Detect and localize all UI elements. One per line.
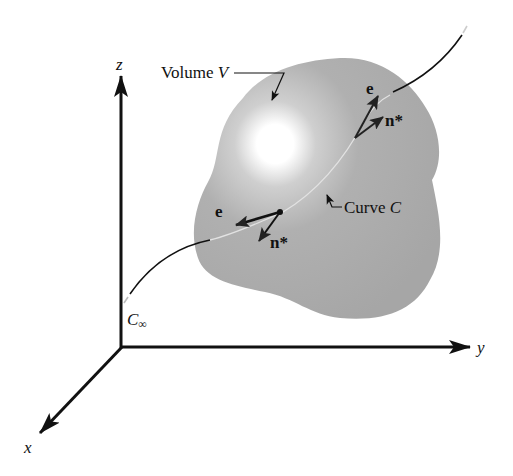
x-axis-label: x bbox=[23, 438, 32, 457]
z-axis-label: z bbox=[115, 55, 123, 74]
lower-n-star-label: n* bbox=[270, 233, 288, 252]
curve-tail-upper-faded bbox=[463, 26, 467, 33]
volume-curve-diagram: z y x e n* e n* Volume V Curve C bbox=[0, 0, 513, 476]
volume-blob bbox=[194, 58, 440, 319]
curve-label: Curve C bbox=[344, 198, 402, 217]
upper-n-star-label: n* bbox=[385, 111, 403, 130]
lower-e-label: e bbox=[215, 202, 223, 221]
x-axis bbox=[40, 347, 122, 433]
y-axis-label: y bbox=[475, 338, 485, 357]
upper-e-label: e bbox=[366, 79, 374, 98]
volume-label: Volume V bbox=[161, 63, 231, 82]
curve-tail-lower-faded bbox=[124, 297, 128, 303]
c-infinity-label: C∞ bbox=[127, 310, 147, 331]
